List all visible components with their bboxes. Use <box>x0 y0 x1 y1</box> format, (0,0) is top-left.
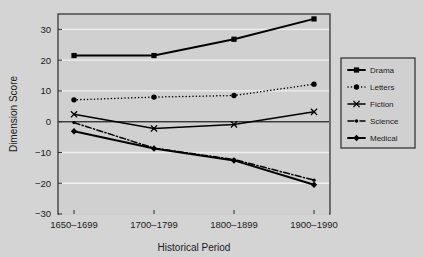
data-point-marker <box>151 53 156 58</box>
data-point-marker <box>354 67 359 72</box>
x-tick-label: 1650–1699 <box>50 219 98 230</box>
data-point-marker <box>151 94 156 99</box>
y-tick-label: −20 <box>35 178 51 189</box>
legend-label: Science <box>370 117 399 126</box>
y-tick-label: −10 <box>35 147 51 158</box>
line-chart-svg: −30−20−100102030 1650–16991700–17991800–… <box>0 0 424 257</box>
data-point-marker <box>231 93 236 98</box>
legend-label: Medical <box>370 134 398 143</box>
y-axis-title: Dimension Score <box>8 75 19 152</box>
x-tick-label: 1800–1899 <box>210 219 258 230</box>
x-axis-title: Historical Period <box>158 242 231 253</box>
data-point-marker <box>355 119 358 122</box>
plot-area <box>58 14 330 214</box>
x-tick-label: 1700–1799 <box>130 219 178 230</box>
y-tick-label: 10 <box>40 85 51 96</box>
legend-label: Letters <box>370 83 394 92</box>
data-point-marker <box>312 178 315 181</box>
legend-label: Fiction <box>370 100 394 109</box>
y-tick-label: 20 <box>40 55 51 66</box>
chart-figure: −30−20−100102030 1650–16991700–17991800–… <box>0 0 424 257</box>
data-point-marker <box>231 37 236 42</box>
data-point-marker <box>71 97 76 102</box>
y-tick-label: 0 <box>46 116 51 127</box>
data-point-marker <box>72 121 75 124</box>
data-point-marker <box>354 84 359 89</box>
y-tick-label: −30 <box>35 208 51 219</box>
legend-label: Drama <box>370 66 395 75</box>
y-tick-label: 30 <box>40 24 51 35</box>
legend: DramaLettersFictionScienceMedical <box>341 58 415 148</box>
x-tick-label: 1900–1990 <box>290 219 338 230</box>
data-point-marker <box>311 81 316 86</box>
data-point-marker <box>71 53 76 58</box>
data-point-marker <box>311 16 316 21</box>
plot-background <box>58 14 330 214</box>
